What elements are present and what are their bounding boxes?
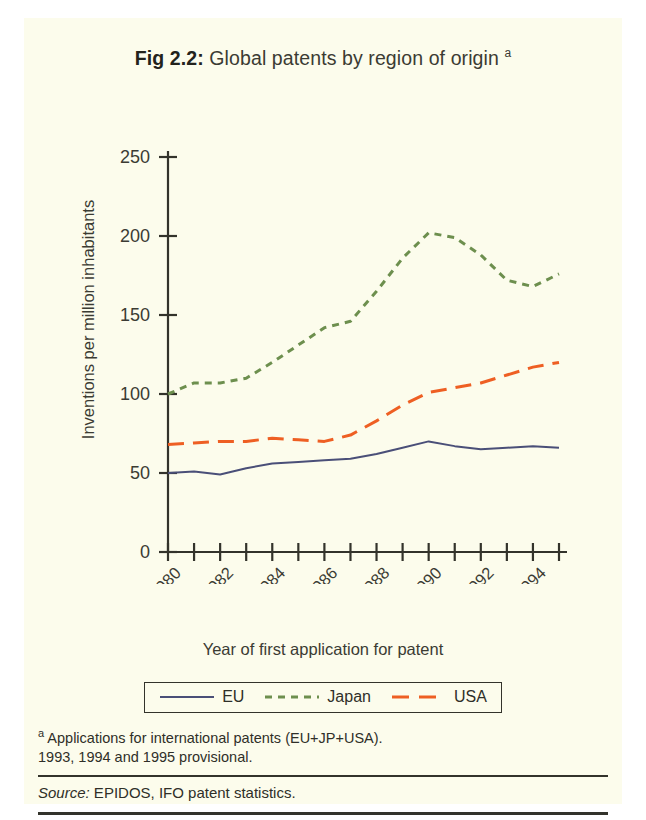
footnote-line-1: Applications for international patents (… (44, 730, 383, 746)
bottom-divider (38, 812, 608, 815)
legend-label-usa: USA (454, 688, 487, 706)
x-axis-tick-label: 1990 (406, 563, 445, 584)
page-title: Fig 2.2: Global patents by region of ori… (24, 46, 622, 70)
y-axis-tick-label: 0 (140, 542, 150, 562)
legend-label-japan: Japan (327, 688, 371, 706)
legend-swatch-usa (391, 691, 447, 703)
x-axis-tick-label: 1988 (354, 563, 393, 584)
y-axis-tick-label: 150 (120, 305, 150, 325)
source-keyword: Source: (38, 784, 90, 801)
source-line: Source: EPIDOS, IFO patent statistics. (38, 784, 608, 801)
x-axis-tick-label: 1982 (198, 563, 237, 584)
legend-swatch-japan (264, 691, 320, 703)
chart-area: Inventions per million inhabitants 05010… (24, 114, 622, 584)
chart-legend: EUJapanUSA (24, 682, 622, 713)
x-axis-tick-label: 1994 (510, 563, 549, 584)
series-line-japan (168, 233, 559, 394)
figure-title-text: Global patents by region of origin (204, 47, 505, 69)
legend-item-japan[interactable]: Japan (264, 688, 371, 706)
legend-swatch-eu (159, 691, 215, 703)
legend-label-eu: EU (222, 688, 244, 706)
figure-page: Fig 2.2: Global patents by region of ori… (24, 18, 622, 804)
x-axis-tick-label: 1980 (145, 563, 184, 584)
x-axis-tick-label: 1992 (458, 563, 497, 584)
y-axis-tick-label: 200 (120, 226, 150, 246)
legend-item-eu[interactable]: EU (159, 688, 244, 706)
title-footnote-marker: a (504, 46, 511, 60)
line-chart-plot: 0501001502002501980198219841986198819901… (24, 114, 622, 584)
y-axis-tick-label: 50 (130, 463, 150, 483)
y-axis-tick-label: 100 (120, 384, 150, 404)
footnote-line-2: 1993, 1994 and 1995 provisional. (38, 749, 252, 765)
footnote-divider (38, 775, 608, 777)
y-axis-tick-label: 250 (120, 147, 150, 167)
figure-number: Fig 2.2: (135, 47, 204, 69)
legend-item-usa[interactable]: USA (391, 688, 487, 706)
series-line-eu (168, 441, 559, 474)
x-axis-tick-label: 1986 (302, 563, 341, 584)
source-text: EPIDOS, IFO patent statistics. (90, 784, 296, 801)
x-axis-tick-label: 1984 (250, 563, 289, 584)
series-line-usa (168, 362, 559, 444)
footnote: a Applications for international patents… (38, 726, 608, 768)
x-axis-title: Year of first application for patent (24, 640, 622, 659)
